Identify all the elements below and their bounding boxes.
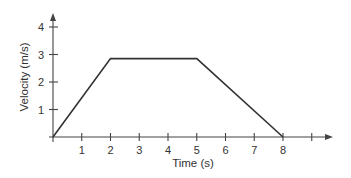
y-tick-label: 2: [38, 76, 44, 88]
x-tick-label: 5: [194, 144, 200, 156]
x-tick-label: 2: [107, 144, 113, 156]
x-tick-label: 4: [165, 144, 171, 156]
x-axis-title: Time (s): [172, 157, 214, 169]
x-axis: [49, 134, 333, 142]
x-tick-label: 7: [251, 144, 257, 156]
y-axis-title: Velocity (m/s): [18, 42, 30, 111]
velocity-line: [53, 59, 283, 137]
x-tick-label: 1: [79, 144, 85, 156]
y-axis-ticks: 1234: [38, 21, 58, 116]
y-tick-label: 3: [38, 49, 44, 61]
x-tick-label: 6: [222, 144, 228, 156]
y-tick-label: 4: [38, 21, 44, 33]
velocity-time-chart: 12345678 1234 Time (s) Velocity (m/s): [0, 0, 351, 178]
y-axis: [50, 13, 56, 137]
y-tick-label: 1: [38, 104, 44, 116]
x-tick-label: 3: [136, 144, 142, 156]
x-tick-label: 8: [280, 144, 286, 156]
y-axis-arrow-icon: [50, 13, 56, 21]
x-axis-arrow-icon: [325, 134, 333, 140]
